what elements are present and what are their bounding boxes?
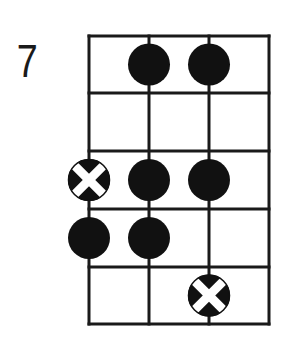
note-dot (68, 217, 110, 259)
fretboard-diagram (0, 0, 288, 347)
note-dot (128, 217, 170, 259)
root-note-dot (188, 275, 230, 317)
root-note-dot (68, 159, 110, 201)
note-dot (128, 44, 170, 86)
note-dot (188, 44, 230, 86)
note-dot (188, 159, 230, 201)
fretboard-grid (89, 36, 269, 324)
note-dot (128, 159, 170, 201)
